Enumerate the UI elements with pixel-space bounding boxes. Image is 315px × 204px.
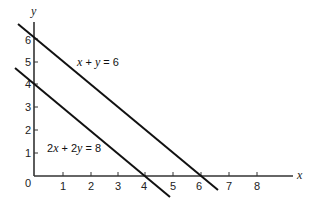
svg-text:6: 6 [25, 34, 31, 46]
svg-text:1: 1 [60, 180, 66, 192]
label-line1: x + y = 6 [76, 55, 119, 69]
svg-text:2: 2 [88, 180, 94, 192]
svg-text:6: 6 [196, 180, 202, 192]
svg-text:7: 7 [226, 180, 232, 192]
svg-text:4: 4 [141, 180, 147, 192]
x-tick-labels: 1 2 3 4 5 6 7 8 [60, 180, 260, 192]
line-2x-plus-2y-equals-8 [15, 68, 170, 197]
y-axis-label: y [30, 4, 37, 18]
svg-text:3: 3 [25, 101, 31, 113]
line-x-plus-y-equals-6 [18, 24, 218, 190]
svg-text:3: 3 [115, 180, 121, 192]
svg-text:5: 5 [25, 56, 31, 68]
graph: y x 0 1 2 3 4 5 6 7 8 1 2 3 4 5 6 [0, 0, 315, 204]
svg-text:8: 8 [254, 180, 260, 192]
svg-text:2: 2 [25, 124, 31, 136]
svg-text:1: 1 [25, 147, 31, 159]
svg-text:5: 5 [170, 180, 176, 192]
origin-label: 0 [25, 177, 31, 189]
x-axis-label: x [296, 168, 303, 182]
y-tick-labels: 1 2 3 4 5 6 [25, 34, 31, 159]
label-line2: 2x + 2y = 8 [47, 141, 101, 155]
